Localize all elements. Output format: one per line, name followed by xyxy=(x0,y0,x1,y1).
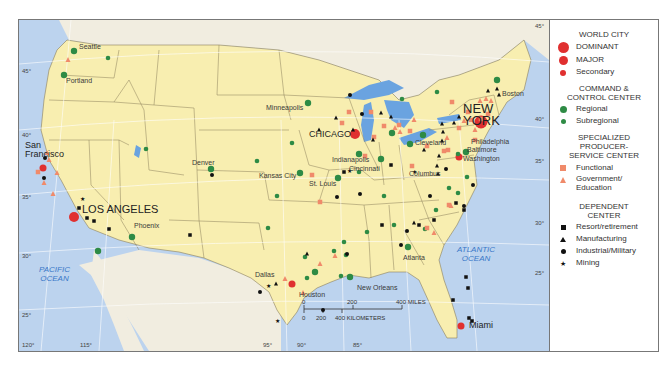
subregional-center-marker xyxy=(382,194,387,199)
small-green-circle-icon xyxy=(561,119,566,124)
resort-center-marker xyxy=(107,227,111,231)
scale-km-200: 200 xyxy=(316,315,326,321)
city-label-miami: Miami xyxy=(469,321,493,330)
city-label-new-york: NEWYORK xyxy=(463,103,500,128)
black-star-icon: ★ xyxy=(560,260,566,267)
regional-center-marker xyxy=(389,130,395,136)
regional-center-marker xyxy=(407,141,413,147)
lon-label-85: 85° xyxy=(353,342,362,348)
lat-label-45-east: 45° xyxy=(535,23,544,29)
legend-heading-command-control: COMMAND &CONTROL CENTER xyxy=(550,84,658,102)
resort-center-marker xyxy=(389,163,393,167)
industrial-center-marker xyxy=(405,229,409,233)
scale-miles-400: 400 MILES xyxy=(396,299,426,305)
resort-center-marker xyxy=(432,218,436,222)
functional-center-marker xyxy=(446,148,451,153)
legend-item-resort: Resort/retirement xyxy=(556,223,658,232)
legend-item-dominant: DOMINANT xyxy=(556,42,658,53)
resort-center-marker xyxy=(188,233,192,237)
scale-miles-0: 0 xyxy=(302,299,305,305)
subregional-center-marker xyxy=(465,175,470,180)
legend-item-manufacturing: Manufacturing xyxy=(556,235,658,244)
regional-center-marker xyxy=(95,248,101,254)
regional-center-marker xyxy=(208,166,214,172)
subregional-center-marker xyxy=(434,208,439,213)
subregional-center-marker xyxy=(456,191,461,196)
lon-label-115: 115° xyxy=(80,342,92,348)
scale-km-0: 0 xyxy=(302,315,305,321)
city-label-minneapolis: Minneapolis xyxy=(266,104,303,111)
lon-label-120: 120° xyxy=(22,342,34,348)
subregional-center-marker xyxy=(447,186,452,191)
regional-center-marker xyxy=(129,234,135,240)
legend-item-government-education: Government/Education xyxy=(556,175,658,193)
city-label-kansas-city: Kansas City xyxy=(259,172,296,179)
functional-center-marker xyxy=(340,121,345,126)
city-label-st-louis: St. Louis xyxy=(309,180,336,187)
scale-bar xyxy=(304,305,402,313)
legend-item-industrial: Industrial/Military xyxy=(556,247,658,256)
city-label-cincinnati: Cincinnati xyxy=(349,165,380,172)
functional-center-marker xyxy=(372,135,377,140)
functional-center-marker xyxy=(442,149,447,154)
resort-center-marker xyxy=(77,206,81,210)
resort-center-marker xyxy=(451,298,455,302)
regional-center-marker xyxy=(71,48,77,54)
industrial-center-marker xyxy=(444,167,448,171)
legend-item-subregional: Subregional xyxy=(556,117,658,126)
functional-center-marker xyxy=(347,110,352,115)
subregional-center-marker xyxy=(342,240,347,245)
industrial-center-marker xyxy=(210,173,214,177)
mining-center-marker: ★ xyxy=(275,318,280,324)
city-label-seattle: Seattle xyxy=(79,43,101,50)
city-label-houston: Houston xyxy=(299,291,325,298)
subregional-center-marker xyxy=(106,56,111,61)
orange-triangle-icon xyxy=(560,177,566,183)
regional-center-marker xyxy=(405,244,411,250)
pacific-ocean-label: PACIFIC OCEAN xyxy=(39,265,70,283)
city-label-boston: Boston xyxy=(502,90,524,97)
orange-square-icon xyxy=(560,165,566,171)
us-city-map: ★★★★★ 45° 40° 35° 30° 25° 45° 40° 35° 30… xyxy=(18,19,550,352)
resort-center-marker xyxy=(342,170,346,174)
scale-miles-200: 200 xyxy=(347,299,357,305)
map-canvas: ★★★★★ xyxy=(19,20,549,351)
subregional-center-marker xyxy=(266,226,271,231)
city-label-los-angeles: LOS ANGELES xyxy=(82,204,158,215)
small-red-circle-icon xyxy=(560,70,566,76)
legend-item-regional: Regional xyxy=(556,105,658,114)
resort-center-marker xyxy=(92,219,96,223)
industrial-center-marker xyxy=(345,252,349,256)
subregional-center-marker xyxy=(400,97,405,102)
functional-center-marker xyxy=(318,200,323,205)
resort-center-marker xyxy=(85,216,89,220)
city-label-philadelphia: Philadelphia xyxy=(471,138,509,145)
resort-center-marker xyxy=(462,208,466,212)
legend-heading-producer-service: SPECIALIZEDPRODUCER-SERVICE CENTER xyxy=(550,133,658,161)
industrial-center-marker xyxy=(348,93,352,97)
functional-center-marker xyxy=(397,123,402,128)
lat-label-35-east: 35° xyxy=(535,158,544,164)
city-label-cleveland: Cleveland xyxy=(415,139,446,146)
world-city-secondary-marker xyxy=(458,323,465,330)
black-square-icon xyxy=(561,225,566,230)
subregional-center-marker xyxy=(456,152,461,157)
regional-center-marker xyxy=(378,156,384,162)
industrial-center-marker xyxy=(360,112,364,116)
regional-center-marker xyxy=(312,269,318,275)
lat-label-40-east: 40° xyxy=(535,116,544,122)
legend-item-functional: Functional xyxy=(556,164,658,173)
subregional-center-marker xyxy=(305,276,310,281)
lat-label-30-east: 30° xyxy=(535,220,544,226)
lon-label-90: 90° xyxy=(297,342,306,348)
world-city-secondary-marker xyxy=(289,281,296,288)
medium-green-circle-icon xyxy=(560,106,567,113)
city-label-indianapolis: Indianapolis xyxy=(332,156,369,163)
large-red-circle-icon xyxy=(558,42,569,53)
industrial-center-marker xyxy=(399,243,403,247)
legend-item-mining: ★ Mining xyxy=(556,259,658,268)
resort-center-marker xyxy=(417,223,421,227)
regional-center-marker xyxy=(347,274,353,280)
regional-center-marker xyxy=(297,170,303,176)
industrial-center-marker xyxy=(462,204,466,208)
